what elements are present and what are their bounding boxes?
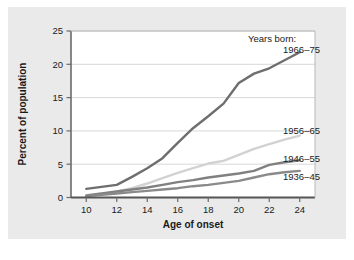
y-axis-tick-labels: 0510152025 — [52, 25, 63, 203]
x-axis-title: Age of onset — [163, 219, 224, 230]
legend-heading: Years born: — [248, 33, 296, 44]
y-tick-label-25: 25 — [52, 25, 63, 36]
series-label-1956-65: 1956–65 — [283, 125, 320, 136]
series-label-1936-45: 1936–45 — [283, 171, 320, 182]
x-tick-label-22: 22 — [264, 204, 275, 215]
x-tick-label-16: 16 — [172, 204, 183, 215]
x-tick-label-20: 20 — [233, 204, 244, 215]
y-tick-label-10: 10 — [52, 125, 63, 136]
y-tick-label-5: 5 — [58, 159, 63, 170]
chart-canvas: 1012141618202224 0510152025 Age of onset… — [0, 0, 354, 260]
x-tick-label-18: 18 — [203, 204, 214, 215]
x-tick-label-14: 14 — [142, 204, 153, 215]
line-chart: 1012141618202224 0510152025 Age of onset… — [0, 0, 354, 260]
y-axis-title: Percent of population — [17, 63, 28, 166]
x-tick-label-24: 24 — [294, 204, 305, 215]
y-tick-label-0: 0 — [58, 192, 63, 203]
y-tick-label-15: 15 — [52, 92, 63, 103]
x-axis-tick-labels: 1012141618202224 — [81, 204, 305, 215]
x-tick-label-12: 12 — [111, 204, 122, 215]
series-label-1946-55: 1946–55 — [283, 153, 320, 164]
x-tick-label-10: 10 — [81, 204, 92, 215]
y-tick-label-20: 20 — [52, 59, 63, 70]
series-label-1966-75: 1966–75 — [283, 44, 320, 55]
